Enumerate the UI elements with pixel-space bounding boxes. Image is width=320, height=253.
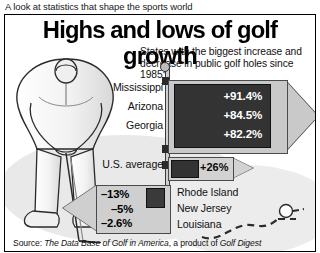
source-middle: , a product of (169, 238, 218, 248)
average-value: +26% (200, 161, 228, 173)
decrease-value-0: –13% (101, 188, 129, 200)
increase-value-2: +82.2% (224, 127, 262, 140)
increase-pennant: +91.4% +84.5% +82.2% (168, 80, 316, 152)
kicker-line: A look at statistics that shape the spor… (5, 1, 192, 12)
increase-value-0: +91.4% (224, 89, 262, 102)
average-pennant-tip (231, 157, 253, 179)
source-work: The Data Base of Golf in America (44, 238, 169, 248)
infographic-frame: Highs and lows of golf growth States wit… (4, 14, 316, 252)
decrease-value-2: –2.6% (101, 217, 132, 229)
source-line: Source: The Data Base of Golf in America… (13, 238, 261, 248)
golf-ball-icon (280, 205, 293, 218)
decrease-pennant-tip (63, 185, 97, 231)
source-publisher: Golf Digest (220, 238, 261, 248)
increase-value-panel: +91.4% +84.5% +82.2% (174, 84, 271, 148)
average-label: U.S. average (102, 158, 163, 170)
decrease-value-panel (146, 188, 165, 208)
flagpole-finial-icon (160, 62, 170, 72)
decrease-pennant: –13% –5% –2.6% (63, 185, 169, 232)
average-pennant: +26% (168, 157, 254, 179)
decrease-value-1: –5% (111, 203, 133, 215)
average-value-panel (171, 160, 199, 178)
increase-state-1: Arizona (128, 100, 163, 112)
increase-state-0: Mississippi (113, 81, 163, 93)
increase-state-2: Georgia (126, 119, 163, 131)
infographic-root: A look at statistics that shape the spor… (0, 0, 320, 253)
increase-value-1: +84.5% (224, 108, 262, 121)
source-prefix: Source: (13, 238, 42, 248)
increase-pennant-tip (285, 80, 316, 152)
